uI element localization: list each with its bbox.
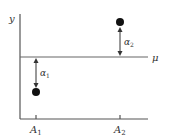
y-axis-label: y: [8, 13, 15, 24]
alpha1-label: α1: [40, 68, 50, 79]
data-point-a2: [116, 18, 124, 26]
alpha2-label: α2: [124, 37, 134, 48]
category-a1-label: A1: [29, 124, 42, 137]
alpha1-arrow: [34, 58, 39, 88]
category-a2-label: A2: [113, 124, 126, 137]
data-point-a1: [32, 88, 40, 96]
effects-diagram: y μ A1 A2 α1 α2: [0, 0, 169, 139]
alpha2-arrow: [118, 27, 123, 56]
mean-line-label: μ: [152, 52, 159, 63]
